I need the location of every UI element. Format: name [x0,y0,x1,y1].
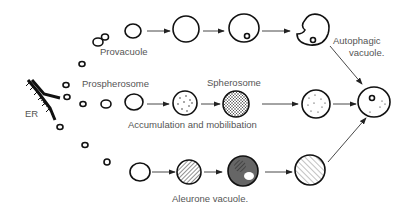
prospherosome-small [101,100,111,108]
vacuole-stage-2 [173,16,199,42]
aleurone-vacuole [228,156,258,186]
er-label: ER [25,108,38,119]
autophagic-vacuole [297,14,329,45]
spherosome [223,91,249,117]
aleurone-label: Aleurone vacuole. [172,193,248,204]
aleurone-mobilized [295,155,325,185]
prospherosome-label: Prospherosome [82,78,149,89]
spherosome-sparse [173,91,197,115]
accumulation-label: Accumulation and mobilibation [128,119,257,130]
aleurone-dense [177,160,201,184]
aleurone-precursor [130,163,150,181]
provacuole-bud [93,34,109,46]
provacuole [125,24,141,38]
vacuole-diagram: ER Provacuole Autophagic vacuole. Prosph… [0,0,417,210]
spherosome-mobilized [302,90,330,118]
final-vacuole [358,87,390,117]
provacuole-label: Provacuole [100,46,148,57]
vacuole-stage-3 [229,14,259,42]
spherosome-label: Spherosome [207,77,261,88]
autophagic-label: Autophagic [333,35,381,46]
autophagic-label-2: vacuole. [349,47,384,58]
prospherosome [125,94,143,110]
